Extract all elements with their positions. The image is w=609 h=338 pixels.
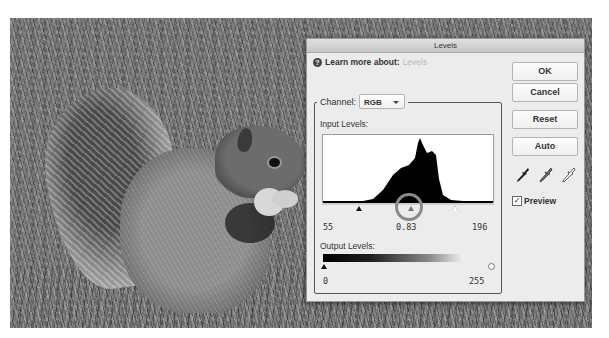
output-black-slider[interactable] [321,264,327,269]
channel-label: Channel: [320,97,356,107]
output-white-value[interactable]: 255 [469,276,484,286]
cancel-button[interactable]: Cancel [512,83,578,102]
dialog-titlebar[interactable]: Levels [307,39,584,53]
learn-more-link[interactable]: Levels [403,57,428,67]
eyedropper-group [516,167,576,183]
input-midtone-value[interactable]: 0.83 [396,222,416,232]
learn-more-label: Learn more about: [325,57,400,67]
channel-row: Channel: RGB [317,94,408,109]
preview-toggle[interactable]: ✓ Preview [512,196,556,206]
output-white-slider[interactable] [488,263,495,270]
input-white-value[interactable]: 196 [472,222,487,232]
chevron-down-icon [393,101,399,104]
output-black-value[interactable]: 0 [323,276,328,286]
output-gradient-bar [323,254,464,262]
input-white-slider[interactable] [452,206,458,211]
input-levels-label: Input Levels: [320,119,368,129]
white-eyedropper-icon[interactable] [562,167,576,183]
auto-button[interactable]: Auto [512,137,578,156]
channel-value: RGB [364,98,382,107]
learn-more-row: ? Learn more about: Levels [313,57,427,67]
output-levels-label: Output Levels: [320,241,375,251]
black-eyedropper-icon[interactable] [516,167,530,183]
preview-checkbox[interactable]: ✓ [512,196,522,206]
help-icon[interactable]: ? [313,58,322,67]
squirrel-paw [272,190,298,208]
preview-label: Preview [524,196,556,206]
reset-button[interactable]: Reset [512,110,578,129]
annotation-circle [395,193,423,221]
squirrel-head [215,126,305,198]
channel-select[interactable]: RGB [359,94,405,109]
levels-dialog: Levels ? Learn more about: Levels OK Can… [306,38,585,302]
input-black-slider[interactable] [356,206,362,211]
gray-eyedropper-icon[interactable] [539,167,553,183]
ok-button[interactable]: OK [512,62,578,81]
squirrel-eye [269,158,280,167]
input-black-value[interactable]: 55 [323,222,333,232]
